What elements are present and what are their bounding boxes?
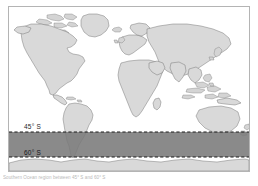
figure-caption: Southern Ocean region between 45° S and … bbox=[3, 175, 253, 180]
world-map-graphic bbox=[9, 7, 249, 171]
latitude-label-45s: 45° S bbox=[24, 123, 41, 130]
latitude-band-fill bbox=[9, 132, 249, 157]
latitude-band-group bbox=[9, 132, 249, 157]
map-frame: 45° S 60° S bbox=[8, 6, 250, 172]
world-map-figure: 45° S 60° S Southern Ocean region betwee… bbox=[0, 0, 258, 186]
latitude-label-60s: 60° S bbox=[24, 149, 41, 156]
